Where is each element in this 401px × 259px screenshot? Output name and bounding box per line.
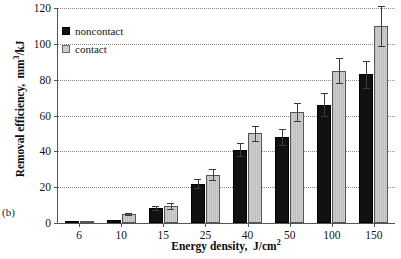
error-cap-upper — [252, 126, 259, 127]
y-tick-label: 20 — [40, 181, 52, 193]
y-tick-mark — [54, 8, 58, 9]
error-cap-upper — [336, 58, 343, 59]
error-cap-lower — [321, 116, 328, 117]
error-bar-contact-100 — [339, 58, 340, 83]
x-tick-mark — [79, 223, 80, 227]
error-cap-lower — [378, 46, 385, 47]
y-tick-mark — [54, 187, 58, 188]
error-bar-noncontact-25 — [198, 179, 199, 188]
error-cap-upper — [294, 103, 301, 104]
y-tick-label: 40 — [40, 145, 52, 157]
legend-label-noncontact: noncontact — [75, 25, 123, 37]
bar-contact-150 — [374, 26, 388, 223]
y-tick-mark — [54, 223, 58, 224]
bar-contact-6 — [80, 221, 94, 223]
bar-contact-100 — [332, 71, 346, 223]
x-tick-mark — [121, 223, 122, 227]
x-tick-label: 6 — [76, 229, 82, 241]
error-cap-upper — [167, 203, 174, 204]
x-tick-label: 10 — [115, 229, 127, 241]
error-cap-upper — [378, 6, 385, 7]
y-axis-title: Removal efficiency, mm3/kJ — [12, 19, 26, 199]
bar-noncontact-6 — [65, 221, 79, 223]
error-bar-contact-150 — [381, 6, 382, 45]
error-cap-lower — [279, 145, 286, 146]
error-bar-noncontact-40 — [240, 143, 241, 156]
bar-noncontact-10 — [107, 220, 121, 223]
figure-panel-b: (b) Removal efficiency, mm3/kJ Energy de… — [0, 0, 401, 259]
error-cap-upper — [209, 169, 216, 170]
error-bar-contact-25 — [213, 169, 214, 180]
error-cap-upper — [237, 143, 244, 144]
legend-item-contact: contact — [62, 40, 123, 58]
error-cap-lower — [209, 180, 216, 181]
error-cap-lower — [336, 83, 343, 84]
error-cap-upper — [363, 61, 370, 62]
y-tick-label: 100 — [34, 38, 51, 50]
error-cap-lower — [152, 210, 159, 211]
hatched-square-icon — [62, 45, 70, 53]
y-tick-mark — [54, 44, 58, 45]
error-cap-upper — [152, 206, 159, 207]
x-tick-label: 40 — [242, 229, 254, 241]
x-tick-mark — [205, 223, 206, 227]
y-tick-label: 0 — [45, 217, 51, 229]
bar-noncontact-50 — [275, 137, 289, 223]
bar-contact-40 — [248, 133, 262, 223]
legend-label-contact: contact — [75, 43, 107, 55]
error-cap-lower — [194, 188, 201, 189]
bar-noncontact-25 — [191, 184, 205, 223]
error-cap-lower — [237, 156, 244, 157]
x-tick-mark — [248, 223, 249, 227]
error-cap-lower — [167, 209, 174, 210]
error-bar-noncontact-100 — [324, 93, 325, 116]
error-bar-noncontact-50 — [282, 129, 283, 145]
x-tick-mark — [332, 223, 333, 227]
error-cap-lower — [363, 88, 370, 89]
error-cap-upper — [279, 129, 286, 130]
bar-contact-25 — [206, 175, 220, 223]
bar-noncontact-150 — [359, 74, 373, 223]
chart-legend: noncontact contact — [62, 22, 123, 58]
error-cap-lower — [252, 141, 259, 142]
bar-noncontact-40 — [233, 150, 247, 223]
x-tick-label: 50 — [284, 229, 296, 241]
x-tick-mark — [374, 223, 375, 227]
y-tick-label: 80 — [40, 74, 52, 86]
error-cap-upper — [321, 93, 328, 94]
x-tick-mark — [290, 223, 291, 227]
bar-contact-50 — [290, 112, 304, 223]
x-tick-mark — [163, 223, 164, 227]
error-bar-contact-50 — [297, 103, 298, 121]
y-tick-mark — [54, 116, 58, 117]
filled-square-icon — [62, 27, 70, 35]
y-tick-mark — [54, 80, 58, 81]
y-tick-label: 60 — [40, 110, 52, 122]
x-tick-label: 100 — [323, 229, 340, 241]
gridline — [58, 8, 395, 9]
x-tick-label: 15 — [158, 229, 170, 241]
panel-label: (b) — [2, 206, 15, 218]
bar-noncontact-100 — [317, 105, 331, 223]
error-bar-noncontact-150 — [366, 61, 367, 88]
error-cap-upper — [194, 179, 201, 180]
error-bar-contact-40 — [255, 126, 256, 140]
legend-item-noncontact: noncontact — [62, 22, 123, 40]
x-axis-title: Energy density, J/cm2 — [56, 238, 396, 252]
error-cap-upper — [125, 213, 132, 214]
x-tick-label: 150 — [365, 229, 382, 241]
error-cap-lower — [294, 121, 301, 122]
error-cap-lower — [125, 215, 132, 216]
y-tick-mark — [54, 151, 58, 152]
y-tick-label: 120 — [34, 2, 51, 14]
x-tick-label: 25 — [200, 229, 212, 241]
